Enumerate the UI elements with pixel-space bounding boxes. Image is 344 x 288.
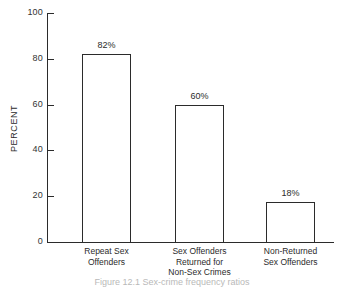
x-category-label-2: Sex Offenders Returned for Non-Sex Crime… — [152, 246, 247, 278]
bar-value-label: 82% — [82, 40, 131, 51]
x-category-label-3: Non-Returned Sex Offenders — [246, 246, 335, 267]
y-tick-mark — [48, 150, 54, 151]
y-tick-20: 20 — [47, 196, 54, 197]
y-tick-mark — [48, 13, 54, 14]
y-tick-0: 0 — [47, 242, 54, 243]
y-tick-mark — [48, 105, 54, 106]
bar-sex-offenders-returned-non-sex-crimes — [175, 105, 224, 243]
y-tick-label: 60 — [33, 99, 43, 110]
figure-caption: Figure 12.1 Sex-crime frequency ratios — [0, 277, 344, 288]
y-tick-label: 100 — [27, 7, 43, 18]
y-tick-label: 40 — [33, 144, 43, 155]
y-tick-mark — [48, 59, 54, 60]
y-axis-line — [47, 13, 48, 243]
y-tick-40: 40 — [47, 150, 54, 151]
y-tick-label: 0 — [38, 236, 43, 247]
bar-non-returned-sex-offenders — [266, 202, 315, 243]
y-tick-80: 80 — [47, 59, 54, 60]
bar-repeat-sex-offenders — [82, 54, 131, 243]
y-tick-mark — [48, 242, 54, 243]
y-tick-label: 20 — [33, 190, 43, 201]
y-tick-mark — [48, 196, 54, 197]
y-tick-100: 100 — [47, 13, 54, 14]
bar-value-label: 18% — [266, 188, 315, 199]
bar-value-label: 60% — [175, 91, 224, 102]
x-category-label-1: Repeat Sex Offenders — [62, 246, 151, 267]
y-tick-60: 60 — [47, 105, 54, 106]
y-axis-title: PERCENT — [9, 96, 27, 160]
y-tick-label: 80 — [33, 53, 43, 64]
